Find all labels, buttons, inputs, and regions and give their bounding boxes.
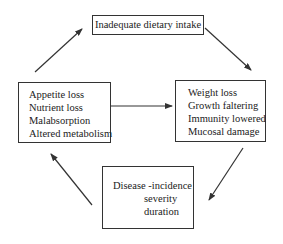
node-appetite-nutrient-loss: Appetite loss Nutrient loss Malabsorptio… — [18, 82, 111, 143]
node-text: Appetite loss — [29, 88, 110, 101]
node-text: Nutrient loss — [29, 101, 110, 114]
arrow-left-to-top — [35, 29, 82, 72]
arrow-right-to-bottom — [209, 148, 243, 200]
node-weight-loss-growth: Weight loss Growth faltering Immunity lo… — [175, 80, 266, 142]
node-text: Malabsorption — [29, 114, 110, 127]
node-text: duration — [113, 205, 193, 218]
node-text: severity — [113, 192, 193, 205]
node-text: Mucosal damage — [188, 125, 265, 138]
arrow-top-to-right — [205, 28, 251, 70]
node-disease: Disease -incidence severity duration — [102, 166, 194, 229]
node-text: Weight loss — [188, 86, 265, 99]
node-text: Immunity lowered — [188, 112, 265, 125]
node-text: Disease -incidence — [113, 179, 193, 192]
arrow-bottom-to-left — [51, 154, 92, 205]
node-text: Altered metabolism — [29, 127, 110, 140]
node-text: Growth faltering — [188, 99, 265, 112]
node-text: Inadequate dietary intake — [93, 16, 203, 34]
node-inadequate-dietary-intake: Inadequate dietary intake — [92, 15, 204, 35]
